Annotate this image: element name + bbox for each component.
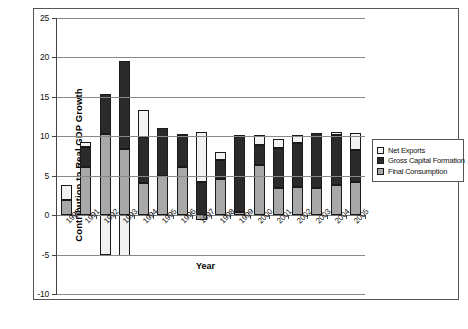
bar-group [100, 18, 111, 294]
bars-layer [57, 18, 365, 294]
y-tick--10 [52, 294, 57, 295]
bar-group [350, 18, 361, 294]
bar-segment-final-consumption [215, 179, 226, 215]
legend-item-gross-capital-formation: Gross Capital Formation [377, 156, 458, 165]
bar-segment-final-consumption [157, 176, 168, 215]
bar-segment-net-exports [215, 152, 226, 160]
y-tick-label-20: 20 [40, 52, 49, 62]
y-tick-20 [52, 57, 57, 58]
bar-segment-final-consumption [254, 165, 265, 215]
legend-swatch-final-consumption [377, 168, 384, 175]
y-tick-label-5: 5 [44, 171, 49, 181]
bar-segment-gross-capital-formation [234, 135, 245, 211]
bar-group [177, 18, 188, 294]
bar-segment-net-exports [80, 142, 91, 148]
gridline-25 [57, 18, 365, 19]
bar-segment-net-exports [273, 139, 284, 148]
y-tick-15 [52, 97, 57, 98]
legend-label-gross-capital-formation: Gross Capital Formation [388, 156, 465, 165]
y-tick-label-10: 10 [40, 131, 49, 141]
y-tick-label-25: 25 [40, 13, 49, 23]
bar-segment-net-exports [61, 185, 72, 200]
bar-group [80, 18, 91, 294]
gridline--10 [57, 294, 365, 295]
gridline-15 [57, 97, 365, 98]
bar-group [234, 18, 245, 294]
gridline-10 [57, 136, 365, 137]
chart-legend: Net Exports Gross Capital Formation Fina… [372, 139, 464, 182]
y-tick-label-0: 0 [44, 210, 49, 220]
y-tick-label--10: -10 [37, 289, 49, 299]
y-tick-0 [52, 215, 57, 216]
y-tick-25 [52, 18, 57, 19]
legend-item-net-exports: Net Exports [377, 146, 458, 155]
legend-label-net-exports: Net Exports [388, 146, 425, 155]
y-tick-label-15: 15 [40, 92, 49, 102]
bar-segment-gross-capital-formation [100, 94, 111, 133]
bar-segment-gross-capital-formation [311, 133, 322, 188]
bar-segment-final-consumption [80, 167, 91, 215]
bar-segment-gross-capital-formation [350, 150, 361, 182]
bar-segment-final-consumption [100, 134, 111, 215]
y-tick-10 [52, 136, 57, 137]
plot-area: -10-505101520251990199119921993199419951… [56, 18, 364, 294]
bar-segment-gross-capital-formation [254, 145, 265, 166]
bar-segment-gross-capital-formation [80, 147, 91, 167]
bar-segment-gross-capital-formation [157, 128, 168, 176]
bar-segment-final-consumption [119, 149, 130, 215]
legend-label-final-consumption: Final Consumption [388, 167, 447, 176]
bar-segment-net-exports [196, 132, 207, 182]
gridline-20 [57, 57, 365, 58]
bar-group [157, 18, 168, 294]
gridline-5 [57, 176, 365, 177]
gridline--5 [57, 255, 365, 256]
bar-segment-final-consumption [138, 183, 149, 215]
bar-group [254, 18, 265, 294]
bar-group [196, 18, 207, 294]
bar-segment-net-exports [331, 132, 342, 135]
bar-segment-gross-capital-formation [177, 136, 188, 167]
bar-group [119, 18, 130, 294]
y-tick-5 [52, 176, 57, 177]
legend-swatch-gross-capital-formation [377, 157, 384, 164]
legend-item-final-consumption: Final Consumption [377, 167, 458, 176]
bar-group [61, 18, 72, 294]
x-axis-title: Year [196, 261, 215, 271]
bar-segment-gross-capital-formation [292, 143, 303, 187]
bar-group [215, 18, 226, 294]
bar-segment-net-exports [138, 110, 149, 137]
bar-group [292, 18, 303, 294]
gdp-growth-contribution-chart: Contribution to Real GDP Growth -10-5051… [0, 0, 468, 329]
bar-group [331, 18, 342, 294]
bar-group [138, 18, 149, 294]
bar-segment-final-consumption [177, 167, 188, 215]
y-tick--5 [52, 255, 57, 256]
y-tick-label--5: -5 [42, 250, 49, 260]
legend-swatch-net-exports [377, 147, 384, 154]
bar-segment-gross-capital-formation [273, 148, 284, 188]
bar-group [311, 18, 322, 294]
bar-group [273, 18, 284, 294]
bar-segment-gross-capital-formation [331, 135, 342, 185]
